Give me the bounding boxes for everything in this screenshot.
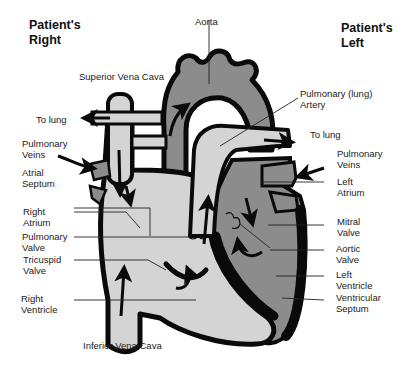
label-pulmonary-veins-right: Pulmonary Veins: [22, 138, 67, 160]
patient-right-header: Patient's Right: [29, 18, 81, 48]
label-superior-vena-cava: Superior Vena Cava: [79, 71, 164, 82]
label-mitral-valve: Mitral Valve: [337, 216, 360, 238]
label-right-ventricle: Right Ventricle: [21, 293, 57, 315]
label-right-atrium: Right Atrium: [23, 206, 50, 228]
label-to-lung-right: To lung: [36, 114, 67, 125]
label-pulmonary-artery: Pulmonary (lung) Artery: [300, 88, 372, 110]
label-left-ventricle: Left Ventricle: [336, 269, 372, 291]
patient-left-header: Patient's Left: [341, 21, 393, 51]
label-aortic-valve: Aortic Valve: [336, 243, 360, 265]
label-left-atrium: Left Atrium: [337, 176, 364, 198]
label-inferior-vena-cava: Inferior Vena Cava: [83, 340, 162, 351]
label-to-lung-left: To lung: [310, 129, 341, 140]
label-pulmonary-valve: Pulmonary Valve: [22, 231, 67, 253]
label-ventricular-septum: Ventricular Septum: [336, 292, 381, 314]
label-tricuspid-valve: Tricuspid Valve: [23, 254, 61, 276]
label-pulmonary-veins-left: Pulmonary Veins: [337, 148, 382, 170]
label-atrial-septum: Atrial Septum: [22, 167, 55, 189]
label-aorta: Aorta: [195, 16, 218, 27]
